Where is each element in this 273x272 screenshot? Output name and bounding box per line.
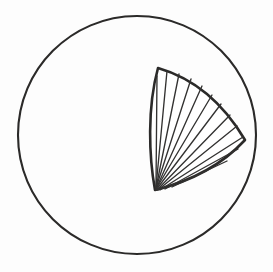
figure-container [0,0,273,272]
line-art-canvas [0,0,273,272]
